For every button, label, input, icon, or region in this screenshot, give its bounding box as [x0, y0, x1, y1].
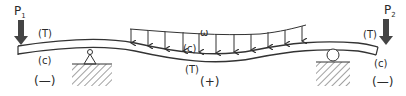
load-p2: P2	[379, 3, 396, 45]
w-label: ω	[200, 27, 208, 38]
pin-support-left	[72, 50, 112, 87]
load-arrow-shaft-icon	[18, 20, 24, 37]
mid-top-label: (c)	[183, 43, 196, 54]
region-left-overhang: (T) (c) (—)	[34, 28, 55, 88]
right-bottom-label: (c)	[374, 58, 387, 69]
arrow-down-icon	[379, 36, 393, 45]
left-top-label: (T)	[38, 28, 52, 39]
load-arrow-shaft-icon	[383, 19, 389, 37]
mid-bottom-label: (T)	[185, 64, 199, 75]
ground-hatch-icon	[316, 62, 350, 86]
distributed-load-w: ω	[130, 25, 306, 53]
beam	[18, 40, 378, 62]
right-top-label: (T)	[363, 29, 377, 40]
p1-label: P1	[14, 4, 26, 20]
left-bottom-label: (c)	[38, 55, 51, 66]
roller-support-right	[316, 49, 350, 86]
right-sign-label: (—)	[372, 75, 393, 89]
left-sign-label: (—)	[34, 74, 55, 88]
mid-sign-label: (+)	[200, 75, 219, 89]
beam-diagram: P1 P2 ω	[0, 0, 406, 96]
region-midspan: (c) (T) (+)	[183, 43, 219, 89]
load-p1: P1	[14, 4, 28, 45]
arrow-down-icon	[14, 36, 28, 45]
ground-hatch-icon	[72, 64, 112, 86]
p2-label: P2	[384, 3, 396, 19]
